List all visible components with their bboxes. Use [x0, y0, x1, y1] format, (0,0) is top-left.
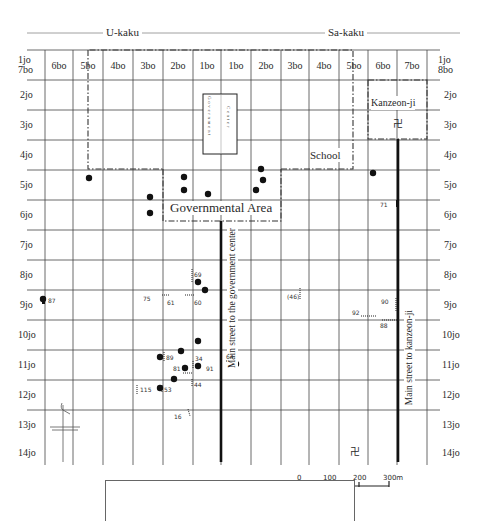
row-label-left: 7jo	[20, 240, 33, 250]
row-label-right: 2jo	[444, 90, 457, 100]
bridge-sketch	[50, 403, 80, 462]
col-label: 4bo	[310, 60, 338, 71]
temple-icon: 卍	[393, 119, 403, 129]
row-label-right: 10jo	[442, 330, 460, 340]
col-label: 5bo	[74, 60, 102, 71]
col-label: 3bo	[134, 60, 162, 71]
site-label: 87	[48, 297, 56, 304]
row-label-left: 4jo	[20, 150, 33, 160]
row-label-right: 5jo	[444, 180, 457, 190]
site-marks	[137, 269, 400, 416]
government-center-label: Governmen​t	[206, 96, 212, 152]
row-label-left: 12jo	[18, 390, 36, 400]
row-label-right: 4jo	[444, 150, 457, 160]
col-label: 6bo	[45, 60, 73, 71]
col-label: 3bo	[281, 60, 309, 71]
site-label: 53	[164, 386, 172, 393]
row-label-left: 13jo	[18, 420, 36, 430]
site-label: 69	[194, 271, 202, 278]
scale-tick-300m: 300m	[383, 474, 403, 482]
site-label: 61	[167, 299, 175, 306]
site-label: 91	[206, 365, 214, 372]
site-label: 88	[380, 322, 388, 329]
col-label: 4bo	[104, 60, 132, 71]
site-label: 16	[174, 413, 182, 420]
row-label-left: 10jo	[18, 330, 36, 340]
row-label-right: 11jo	[442, 360, 459, 370]
row-label-right: 6jo	[444, 210, 457, 220]
corner-right-label: 1jo 8bo	[438, 55, 453, 75]
site-label: 92	[352, 309, 360, 316]
site-label: (46)	[287, 293, 299, 300]
scale-tick-200: 200	[353, 474, 366, 482]
col-label: 2bo	[164, 60, 192, 71]
row-label-right: 12jo	[442, 390, 460, 400]
site-label: 90	[381, 298, 389, 305]
row-label-right: 8jo	[444, 270, 457, 280]
legend-box	[105, 480, 355, 521]
row-label-left: 5jo	[20, 180, 33, 190]
col-label: 1bo	[222, 60, 250, 71]
site-label: 115	[140, 386, 151, 393]
row-label-left: 11jo	[18, 360, 35, 370]
col-label: 2bo	[252, 60, 280, 71]
row-label-left: 9jo	[20, 300, 33, 310]
row-label-right: 9jo	[444, 300, 457, 310]
sa-kaku-label: Sa-kaku	[325, 26, 367, 38]
row-label-left: 2jo	[20, 90, 33, 100]
row-label-left: 3jo	[20, 120, 33, 130]
site-label: 44	[194, 381, 202, 388]
site-label: 81	[173, 365, 181, 372]
row-label-left: 6jo	[20, 210, 33, 220]
row-label-right: 13jo	[442, 420, 460, 430]
col-label: 5bo	[340, 60, 368, 71]
col-label: 6bo	[369, 60, 397, 71]
governmental-area-label: Governmental Area	[170, 201, 272, 215]
site-label: 34	[195, 355, 203, 362]
row-label-right: 3jo	[444, 120, 457, 130]
gov-center-street-label: Main street to the government center	[227, 228, 238, 368]
site-label: 60	[194, 299, 202, 306]
site-label: 64	[226, 353, 234, 360]
site-label: 75	[143, 295, 151, 302]
col-label: 1bo	[193, 60, 221, 71]
row-label-right: 7jo	[444, 240, 457, 250]
site-label: 71	[380, 201, 388, 208]
row-label-left: 8jo	[20, 270, 33, 280]
corner-left-label: 1jo 7bo	[18, 55, 33, 75]
temple-icon: 卍	[350, 447, 360, 457]
row-label-left: 14jo	[18, 448, 36, 458]
site-label: 89	[166, 354, 174, 361]
row-label-right: 14jo	[442, 448, 460, 458]
government-center-label-2: Center	[225, 106, 231, 146]
kanzeon-ji-street-label: Main street to kanzeon-ji	[404, 310, 415, 405]
school-label: School	[310, 148, 341, 162]
kanzeon-ji-label: Kanzeon-ji	[371, 96, 415, 110]
col-label: 7bo	[398, 60, 426, 71]
u-kaku-label: U-kaku	[103, 26, 142, 38]
